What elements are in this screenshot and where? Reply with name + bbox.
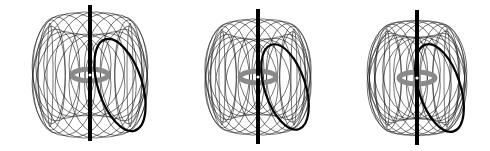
torus-2 [205, 9, 318, 144]
torus-diagram-1 [0, 0, 490, 151]
center-point [256, 75, 259, 78]
center-point [415, 76, 418, 79]
figure [0, 0, 490, 151]
torus-1 [32, 5, 156, 141]
center-point [88, 73, 91, 76]
field-loop [384, 29, 390, 128]
torus-3 [367, 10, 473, 145]
field-loop [444, 29, 450, 128]
